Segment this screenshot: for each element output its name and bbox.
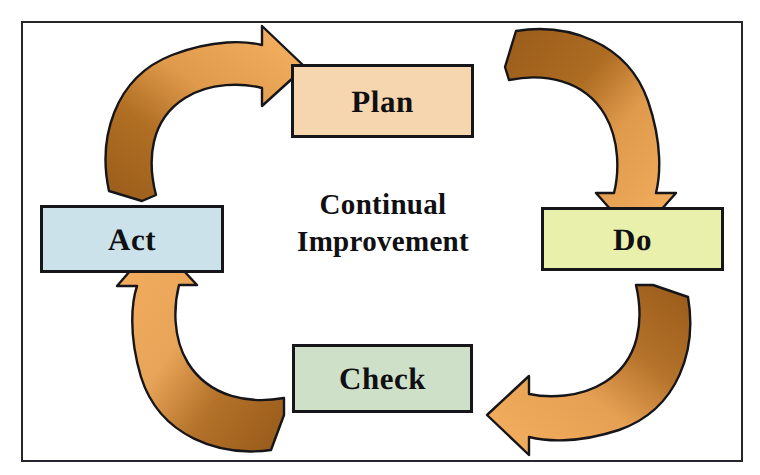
center-caption: Continual Improvement [258,186,508,260]
node-check[interactable]: Check [292,344,473,413]
node-act[interactable]: Act [40,205,224,273]
center-caption-line-1: Continual [258,186,508,223]
arrow-act-to-plan [106,26,305,201]
node-act-label: Act [108,224,156,255]
node-do[interactable]: Do [541,207,724,271]
arrow-do-to-check [487,285,690,455]
node-do-label: Do [613,224,652,255]
pdca-cycle-diagram: Plan Do Check Act Continual Improvement [0,0,760,475]
center-caption-line-2: Improvement [258,223,508,260]
node-plan-label: Plan [351,86,413,117]
node-plan[interactable]: Plan [291,64,474,138]
node-check-label: Check [339,363,426,394]
